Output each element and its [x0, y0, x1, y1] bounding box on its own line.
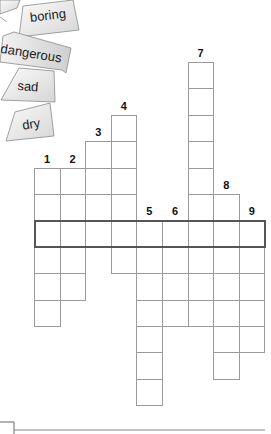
clue-number-8: 8 — [213, 179, 239, 191]
crossword-cell[interactable] — [34, 168, 61, 195]
clue-number-1: 1 — [34, 153, 60, 165]
crossword-cell[interactable] — [34, 300, 61, 327]
crossword-cell[interactable] — [60, 247, 87, 274]
crossword-cell[interactable] — [111, 168, 138, 195]
crossword-cell[interactable] — [188, 300, 215, 327]
crossword-cell[interactable] — [239, 220, 266, 247]
crossword-cell[interactable] — [136, 326, 163, 353]
crossword-cell[interactable] — [239, 326, 266, 353]
hidden-card — [0, 0, 20, 22]
clue-number-6: 6 — [162, 205, 188, 217]
clue-number-5: 5 — [136, 205, 162, 217]
crossword-cell[interactable] — [239, 273, 266, 300]
clue-number-2: 2 — [60, 153, 86, 165]
crossword-cell[interactable] — [34, 220, 61, 247]
crossword-cell[interactable] — [60, 194, 87, 221]
crossword-cell[interactable] — [85, 194, 112, 221]
crossword-cell[interactable] — [136, 247, 163, 274]
crossword-cell[interactable] — [188, 194, 215, 221]
word-card-label-dry: dry — [21, 115, 41, 133]
crossword-cell[interactable] — [213, 300, 240, 327]
crossword-cell[interactable] — [213, 352, 240, 379]
crossword-cell[interactable] — [60, 168, 87, 195]
crossword-cell[interactable] — [136, 300, 163, 327]
crossword-cell[interactable] — [85, 168, 112, 195]
crossword-cell[interactable] — [213, 326, 240, 353]
crossword-cell[interactable] — [213, 220, 240, 247]
crossword-cell[interactable] — [60, 220, 87, 247]
crossword-cell[interactable] — [162, 300, 189, 327]
crossword-cell[interactable] — [111, 194, 138, 221]
crossword-cell[interactable] — [239, 247, 266, 274]
crossword-cell[interactable] — [136, 379, 163, 406]
crossword-cell[interactable] — [188, 247, 215, 274]
crossword-cell[interactable] — [162, 220, 189, 247]
crossword-cell[interactable] — [34, 273, 61, 300]
crossword-cell[interactable] — [162, 247, 189, 274]
crossword-cell[interactable] — [60, 273, 87, 300]
crossword-cell[interactable] — [213, 194, 240, 221]
crossword-cell[interactable] — [136, 273, 163, 300]
word-card-label-sad: sad — [17, 78, 39, 94]
crossword-cell[interactable] — [188, 168, 215, 195]
crossword-cell[interactable] — [136, 352, 163, 379]
crossword-cell[interactable] — [188, 220, 215, 247]
crossword-cell[interactable] — [162, 273, 189, 300]
crossword-cell[interactable] — [188, 273, 215, 300]
crossword-cell[interactable] — [111, 247, 138, 274]
crossword-cell[interactable] — [136, 220, 163, 247]
crossword-cell[interactable] — [111, 220, 138, 247]
crossword-cell[interactable] — [34, 247, 61, 274]
crossword-cell[interactable] — [34, 194, 61, 221]
crossword-cell[interactable] — [239, 300, 266, 327]
crossword-cell[interactable] — [213, 247, 240, 274]
clue-number-9: 9 — [239, 205, 265, 217]
crossword-cell[interactable] — [213, 273, 240, 300]
crossword-cell[interactable] — [85, 220, 112, 247]
